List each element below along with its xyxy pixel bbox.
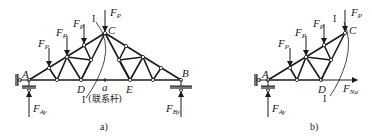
reaction-label-By: FBy: [165, 102, 181, 116]
load-label-2: FP: [55, 26, 68, 40]
support-a-right: [170, 80, 192, 90]
section-label-top-a: I: [92, 13, 95, 24]
load-label-4: FP: [109, 6, 122, 20]
section-label-bottom-a: I: [82, 94, 85, 105]
node-label-C-b: C: [349, 24, 357, 36]
node-label-E-a: E: [125, 83, 133, 95]
load-label-3: FP: [72, 17, 85, 31]
section-label-bottom-b: I: [323, 93, 326, 104]
load-label-b2: FP: [294, 26, 307, 40]
node-label-C-a: C: [108, 24, 116, 36]
member-label-a: a: [102, 81, 108, 93]
caption-b: b): [310, 121, 318, 133]
reaction-label-Ay: FAy: [32, 102, 48, 116]
internal-force-label: FNa: [342, 82, 358, 96]
node-label-B-a: B: [182, 67, 189, 79]
reaction-label-Ay-b: FAy: [271, 102, 287, 116]
load-label-b3: FP: [312, 17, 325, 31]
truss-diagram: FP FP FP FP I C A B D E a I (联系杆) FAy FB…: [0, 0, 372, 138]
caption-a: a): [100, 121, 108, 133]
load-label-b1: FP: [277, 37, 290, 51]
node-label-A-a: A: [21, 68, 29, 80]
load-label-b4: FP: [350, 6, 363, 20]
tie-rod-label: (联系杆): [88, 93, 122, 104]
load-label-1: FP: [37, 37, 50, 51]
section-label-top-b: I: [333, 13, 336, 24]
node-label-A-b: A: [261, 68, 269, 80]
